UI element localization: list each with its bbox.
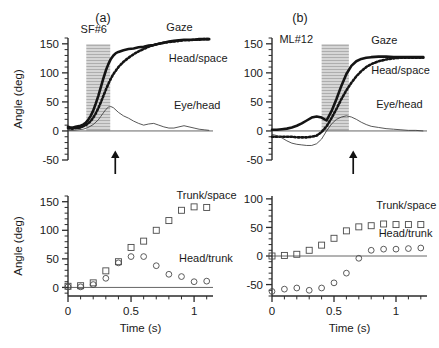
series-head-trunk xyxy=(269,245,424,294)
data-point-circle xyxy=(418,245,424,251)
x-tick-label: 0.5 xyxy=(326,305,342,317)
chart-panel-b-bottom: -5005010000.51Time (s)Trunk/spaceHead/tr… xyxy=(244,193,436,334)
data-point-square xyxy=(153,227,159,233)
panel-letter-b: (b) xyxy=(292,11,307,25)
y-tick-label: 150 xyxy=(40,196,59,208)
y-tick-label: 100 xyxy=(244,193,263,205)
data-point-square xyxy=(381,221,387,227)
data-point-circle xyxy=(90,282,96,288)
annotation-label: SF#6 xyxy=(81,23,107,35)
x-tick-label: 0.5 xyxy=(123,305,139,317)
y-tick-label: 150 xyxy=(244,38,263,50)
y-tick-label: 100 xyxy=(40,224,59,236)
data-point-circle xyxy=(153,263,159,269)
data-point-square xyxy=(191,204,197,210)
y-tick-label: 150 xyxy=(40,38,59,50)
data-point-circle xyxy=(344,270,350,276)
data-point-circle xyxy=(166,271,172,277)
x-tick-label: 0 xyxy=(269,305,275,317)
figure-root: -50050100150SF#6GazeHead/spaceEye/head05… xyxy=(0,0,439,348)
data-point-circle xyxy=(368,247,374,253)
y-tick-label: 0 xyxy=(257,125,263,137)
data-point-circle xyxy=(141,254,147,260)
data-point-circle xyxy=(331,280,337,286)
data-point-circle xyxy=(393,246,399,252)
data-point-circle xyxy=(381,246,387,252)
annotation-label: Trunk/space xyxy=(376,199,436,211)
event-arrow xyxy=(111,150,119,174)
annotation-label: ML#12 xyxy=(279,33,313,45)
annotation-label: Gaze xyxy=(166,21,192,33)
y-axis-title: Angle (deg) xyxy=(12,69,24,129)
y-tick-label: 0 xyxy=(53,282,59,294)
data-point-circle xyxy=(319,285,325,291)
y-axis-title: Angle (deg) xyxy=(12,216,24,276)
data-point-square xyxy=(141,238,147,244)
data-point-square xyxy=(306,247,312,253)
data-point-square xyxy=(128,244,134,250)
data-point-circle xyxy=(282,286,288,292)
y-tick-label: 100 xyxy=(40,67,59,79)
event-arrow-head xyxy=(349,150,357,158)
y-tick-label: 50 xyxy=(250,222,263,234)
data-point-square xyxy=(166,218,172,224)
data-point-square xyxy=(281,252,287,258)
y-tick-label: 50 xyxy=(46,253,59,265)
data-point-circle xyxy=(103,275,109,281)
figure-caption-ghost xyxy=(0,334,439,348)
annotation-label: Head/trunk xyxy=(179,252,233,264)
data-point-circle xyxy=(179,274,185,280)
figure-canvas: -50050100150SF#6GazeHead/spaceEye/head05… xyxy=(0,0,439,348)
data-point-circle xyxy=(294,285,300,291)
y-tick-label: -50 xyxy=(246,279,263,291)
y-tick-label: -50 xyxy=(246,154,263,166)
y-tick-label: 50 xyxy=(250,96,263,108)
event-arrow-head xyxy=(111,150,119,158)
y-tick-label: 0 xyxy=(53,125,59,137)
data-point-circle xyxy=(306,287,312,293)
annotation-label: Eye/head xyxy=(174,99,220,111)
data-point-square xyxy=(103,268,109,274)
x-tick-label: 1 xyxy=(191,305,197,317)
y-tick-label: 100 xyxy=(244,67,263,79)
x-axis-title: Time (s) xyxy=(329,322,371,334)
annotation-label: Head/space xyxy=(371,64,430,76)
x-tick-label: 1 xyxy=(393,305,399,317)
annotation-label: Trunk/space xyxy=(176,189,236,201)
panel-letter-a: (a) xyxy=(95,11,110,25)
data-point-square xyxy=(331,235,337,241)
y-tick-label: -50 xyxy=(42,154,59,166)
data-point-circle xyxy=(406,246,412,252)
data-point-square xyxy=(368,223,374,229)
data-point-circle xyxy=(191,279,197,285)
data-point-square xyxy=(319,242,325,248)
annotation-label: Head/trunk xyxy=(379,227,433,239)
chart-panel-b-top: -50050100150ML#12GazeHead/spaceEye/head xyxy=(244,33,430,174)
chart-panel-a-top: -50050100150SF#6GazeHead/spaceEye/head xyxy=(40,21,228,174)
annotation-label: Eye/head xyxy=(376,98,422,110)
data-point-circle xyxy=(128,254,134,260)
annotation-label: Head/space xyxy=(169,52,228,64)
series-trunk-space xyxy=(65,204,210,289)
y-tick-label: 0 xyxy=(257,250,263,262)
data-point-circle xyxy=(204,278,210,284)
x-tick-label: 0 xyxy=(65,305,71,317)
chart-panel-a-bottom: 05010015000.51Time (s)Trunk/spaceHead/tr… xyxy=(40,189,237,334)
annotation-label: Gaze xyxy=(371,34,397,46)
event-arrow xyxy=(349,150,357,174)
data-point-square xyxy=(343,228,349,234)
data-point-square xyxy=(178,207,184,213)
data-point-square xyxy=(356,224,362,230)
shaded-time-band xyxy=(322,44,349,131)
data-point-square xyxy=(204,204,210,210)
y-tick-label: 50 xyxy=(46,96,59,108)
x-axis-title: Time (s) xyxy=(120,322,162,334)
